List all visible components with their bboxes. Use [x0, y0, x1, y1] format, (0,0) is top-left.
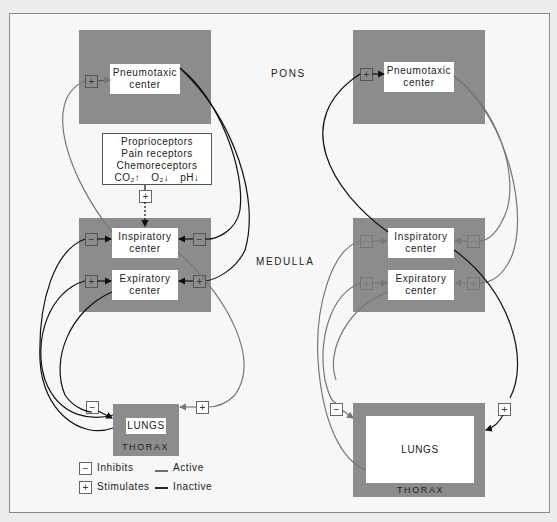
connector-lines [0, 0, 557, 522]
